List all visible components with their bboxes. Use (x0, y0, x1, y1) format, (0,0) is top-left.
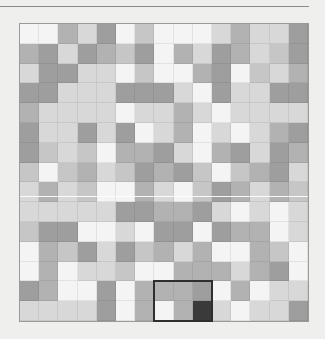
grid-cell[interactable] (212, 242, 231, 262)
grid-cell[interactable] (289, 202, 308, 222)
grid-cell[interactable] (97, 242, 116, 262)
grid-cell[interactable] (212, 103, 231, 123)
grid-cell[interactable] (97, 202, 116, 222)
grid-cell[interactable] (116, 262, 135, 282)
grid-cell[interactable] (193, 143, 212, 163)
grid-cell[interactable] (135, 103, 154, 123)
grid-cell[interactable] (270, 262, 289, 282)
grid-cell[interactable] (193, 301, 212, 321)
grid-cell[interactable] (250, 83, 269, 103)
grid-cell[interactable] (154, 163, 173, 183)
grid-cell[interactable] (231, 143, 250, 163)
grid-cell[interactable] (270, 44, 289, 64)
grid-cell[interactable] (78, 24, 97, 44)
grid-cell[interactable] (116, 143, 135, 163)
grid-cell[interactable] (97, 24, 116, 44)
grid-cell[interactable] (58, 222, 77, 242)
grid-cell[interactable] (270, 242, 289, 262)
grid-cell[interactable] (135, 301, 154, 321)
grid-cell[interactable] (97, 301, 116, 321)
grid-cell[interactable] (39, 163, 58, 183)
grid-cell[interactable] (193, 24, 212, 44)
grid-cell[interactable] (39, 242, 58, 262)
grid-cell[interactable] (289, 123, 308, 143)
grid-cell[interactable] (174, 123, 193, 143)
grid-cell[interactable] (193, 182, 212, 202)
grid-cell[interactable] (193, 64, 212, 84)
grid-cell[interactable] (154, 222, 173, 242)
grid-cell[interactable] (250, 64, 269, 84)
grid-cell[interactable] (20, 123, 39, 143)
grid-cell[interactable] (20, 301, 39, 321)
grid-cell[interactable] (212, 44, 231, 64)
grid-cell[interactable] (78, 44, 97, 64)
grid-cell[interactable] (58, 242, 77, 262)
grid-cell[interactable] (289, 262, 308, 282)
grid-cell[interactable] (289, 242, 308, 262)
grid-cell[interactable] (289, 281, 308, 301)
grid-cell[interactable] (78, 242, 97, 262)
grid-cell[interactable] (231, 262, 250, 282)
grid-cell[interactable] (135, 44, 154, 64)
grid-cell[interactable] (231, 83, 250, 103)
grid-cell[interactable] (231, 182, 250, 202)
grid-cell[interactable] (20, 202, 39, 222)
grid-cell[interactable] (116, 123, 135, 143)
grid-cell[interactable] (58, 64, 77, 84)
grid-cell[interactable] (39, 222, 58, 242)
grid-cell[interactable] (135, 202, 154, 222)
grid-cell[interactable] (231, 281, 250, 301)
grid-cell[interactable] (154, 202, 173, 222)
grid-cell[interactable] (174, 281, 193, 301)
grid-cell[interactable] (78, 83, 97, 103)
grid-cell[interactable] (39, 83, 58, 103)
grid-cell[interactable] (97, 64, 116, 84)
grid-cell[interactable] (289, 163, 308, 183)
grid-cell[interactable] (231, 242, 250, 262)
grid-cell[interactable] (174, 163, 193, 183)
grid-cell[interactable] (270, 281, 289, 301)
grid-cell[interactable] (78, 262, 97, 282)
grid-cell[interactable] (231, 163, 250, 183)
grid-cell[interactable] (193, 222, 212, 242)
grid-cell[interactable] (154, 83, 173, 103)
grid-cell[interactable] (78, 301, 97, 321)
grid-cell[interactable] (231, 44, 250, 64)
grid-cell[interactable] (289, 64, 308, 84)
grid-cell[interactable] (58, 83, 77, 103)
grid-cell[interactable] (58, 301, 77, 321)
grid-cell[interactable] (58, 103, 77, 123)
grid-cell[interactable] (20, 83, 39, 103)
grid-cell[interactable] (193, 44, 212, 64)
grid-cell[interactable] (135, 242, 154, 262)
grid-cell[interactable] (20, 163, 39, 183)
grid-cell[interactable] (135, 64, 154, 84)
grid-cell[interactable] (174, 83, 193, 103)
grid-cell[interactable] (174, 64, 193, 84)
grid-cell[interactable] (193, 103, 212, 123)
grid-cell[interactable] (289, 143, 308, 163)
grid-cell[interactable] (135, 143, 154, 163)
grid-cell[interactable] (116, 222, 135, 242)
grid-cell[interactable] (39, 262, 58, 282)
grid-cell[interactable] (212, 143, 231, 163)
grid-cell[interactable] (212, 24, 231, 44)
grid-cell[interactable] (116, 242, 135, 262)
grid-cell[interactable] (231, 64, 250, 84)
grid-cell[interactable] (20, 281, 39, 301)
grid-cell[interactable] (289, 182, 308, 202)
grid-cell[interactable] (154, 182, 173, 202)
grid-cell[interactable] (270, 64, 289, 84)
grid-cell[interactable] (135, 182, 154, 202)
tile-grid[interactable] (19, 23, 309, 322)
grid-cell[interactable] (250, 182, 269, 202)
grid-cell[interactable] (212, 64, 231, 84)
grid-cell[interactable] (39, 24, 58, 44)
grid-cell[interactable] (20, 64, 39, 84)
grid-cell[interactable] (174, 24, 193, 44)
grid-cell[interactable] (58, 281, 77, 301)
grid-cell[interactable] (39, 103, 58, 123)
grid-cell[interactable] (231, 24, 250, 44)
grid-cell[interactable] (20, 103, 39, 123)
grid-cell[interactable] (39, 123, 58, 143)
